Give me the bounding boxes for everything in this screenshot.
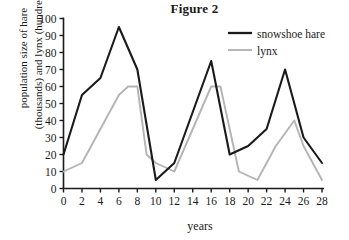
- y-axis-tick-label: 10: [45, 166, 57, 178]
- x-axis-tick-label: 22: [261, 195, 273, 207]
- x-axis-tick-label: 6: [116, 195, 122, 207]
- legend-label-lynx: lynx: [257, 45, 278, 58]
- x-axis-tick-label: 2: [79, 195, 85, 207]
- y-axis-tick-label: 90: [45, 30, 57, 42]
- y-axis-tick-label: 60: [45, 81, 57, 93]
- x-axis-tick-label: 16: [205, 195, 217, 207]
- chart-legend: snowshoe harelynx: [228, 28, 325, 58]
- x-axis-tick-label: 24: [279, 195, 291, 207]
- chart-plot-area: 0102030405060708090100 02468101214161820…: [0, 0, 349, 240]
- y-axis-tick-label: 40: [45, 115, 57, 127]
- x-axis-label: years: [60, 219, 340, 234]
- y-axis-tick-label: 80: [45, 47, 57, 59]
- y-axis-tick-label: 30: [45, 132, 57, 144]
- data-line-snowshoe-hare: [64, 27, 323, 180]
- y-axis-tick-label: 100: [39, 13, 57, 25]
- x-axis-tick-label: 4: [98, 195, 104, 207]
- legend-label-snowshoe-hare: snowshoe hare: [257, 28, 325, 40]
- y-axis-tick-label: 70: [45, 64, 57, 76]
- x-axis-tick-label: 26: [298, 195, 310, 207]
- y-axis-tick-label: 50: [45, 98, 57, 110]
- x-axis-tick-label: 0: [61, 195, 67, 207]
- x-axis-tick-label: 12: [169, 195, 181, 207]
- x-axis-tick-label: 10: [150, 195, 162, 207]
- x-axis-tick-label: 14: [187, 195, 199, 207]
- y-axis-tick-label: 20: [45, 149, 57, 161]
- y-axis-tick-group: 0102030405060708090100: [39, 13, 63, 195]
- x-axis-tick-group: 0246810121416182022242628: [61, 189, 328, 207]
- x-axis-tick-label: 8: [134, 195, 140, 207]
- figure-container: Figure 2 population size of hare (thousa…: [0, 0, 349, 240]
- y-axis-tick-label: 0: [51, 183, 57, 195]
- x-axis-tick-label: 18: [224, 195, 236, 207]
- data-line-lynx: [64, 87, 323, 181]
- data-series-group: [64, 27, 323, 180]
- x-axis-tick-label: 20: [242, 195, 254, 207]
- x-axis-tick-label: 28: [316, 195, 328, 207]
